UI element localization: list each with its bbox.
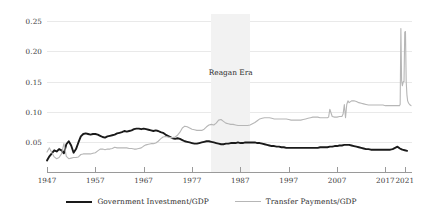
y-axis: 0.050.100.150.200.25: [0, 14, 42, 172]
x-axis-tick: [47, 167, 48, 172]
y-axis-tick-label: 0.15: [26, 77, 42, 86]
y-axis-tick-label: 0.25: [26, 17, 42, 26]
x-axis-tick: [385, 167, 386, 172]
chart-figure: 0.050.100.150.200.25 Reagan Era 19471957…: [0, 0, 423, 215]
x-axis-tick: [337, 167, 338, 172]
x-axis-tick-label: 2017: [376, 176, 395, 185]
x-axis-tick: [240, 167, 241, 172]
y-axis-tick-label: 0.05: [26, 137, 42, 146]
x-axis-tick-label: 2021: [395, 176, 414, 185]
legend-entry: Government Investment/GDP: [66, 197, 208, 206]
chart-legend: Government Investment/GDPTransfer Paymen…: [0, 197, 423, 206]
x-axis-tick-label: 1977: [183, 176, 202, 185]
series-line: [47, 129, 407, 161]
x-axis-tick-label: 1967: [134, 176, 153, 185]
y-axis-tick-label: 0.20: [26, 47, 42, 56]
x-axis-tick: [405, 167, 406, 172]
reagan-era-label: Reagan Era: [209, 68, 253, 77]
x-axis-tick-label: 1987: [231, 176, 250, 185]
legend-line-swatch: [235, 201, 261, 202]
x-axis-tick: [192, 167, 193, 172]
legend-label: Government Investment/GDP: [97, 197, 208, 206]
legend-label: Transfer Payments/GDP: [266, 197, 357, 206]
x-axis-line: [47, 172, 412, 173]
series-line: [47, 28, 411, 158]
x-axis-tick-label: 1957: [86, 176, 105, 185]
legend-line-swatch: [66, 201, 92, 203]
x-axis-tick-label: 1947: [38, 176, 57, 185]
x-axis-tick-label: 1997: [279, 176, 298, 185]
x-axis-tick: [289, 167, 290, 172]
x-axis-tick: [144, 167, 145, 172]
legend-entry: Transfer Payments/GDP: [235, 197, 357, 206]
y-axis-tick-label: 0.10: [26, 107, 42, 116]
series-container: [47, 14, 412, 172]
plot-area: [47, 14, 412, 172]
x-axis-tick: [95, 167, 96, 172]
x-axis-tick-label: 2007: [328, 176, 347, 185]
